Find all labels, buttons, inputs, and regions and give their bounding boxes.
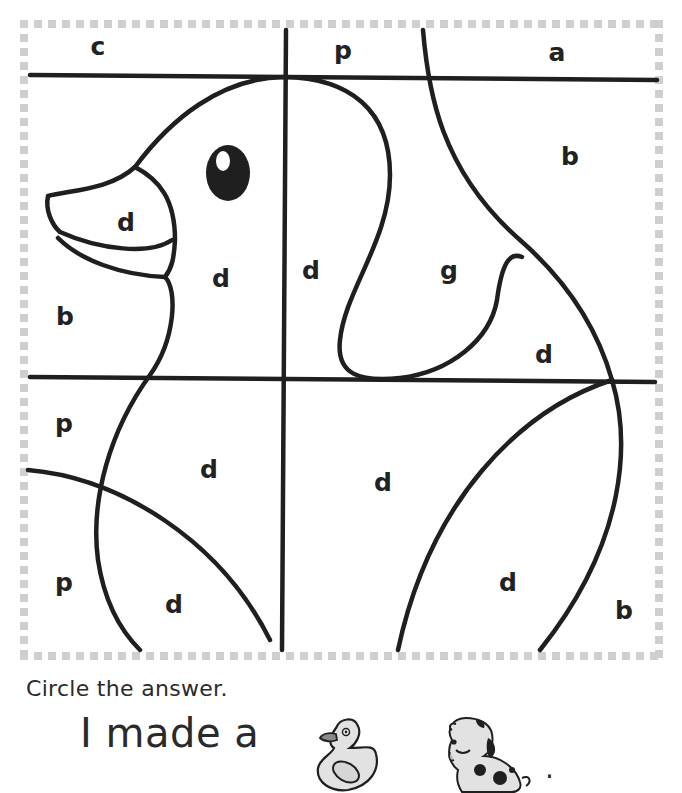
cell-letter-top-right-bg: b [561, 144, 579, 169]
cell-letter-top-left: c [91, 34, 106, 59]
cell-letter-head-right: d [302, 258, 320, 283]
cell-letter-body-1: d [200, 457, 218, 482]
cell-letter-wing: d [499, 570, 517, 595]
duck-icon [304, 714, 384, 793]
cell-letter-lower-left-2: p [55, 570, 73, 595]
grid-line-h1 [30, 75, 657, 80]
cell-letter-lower-right-bg: b [615, 598, 633, 623]
cell-letter-lower-left-1: p [55, 411, 73, 436]
cell-letter-body-3: d [374, 470, 392, 495]
cell-letter-wing-top: d [535, 342, 553, 367]
cell-letter-top-mid: p [334, 38, 352, 63]
instruction-text: Circle the answer. [26, 676, 228, 701]
dog-icon [432, 712, 540, 793]
sentence-period: . [545, 752, 554, 785]
duck-eye-icon [206, 145, 250, 201]
grid-line-v1 [282, 30, 286, 650]
cell-letter-neck: g [440, 258, 458, 283]
cell-letter-head: d [212, 266, 230, 291]
answer-choice-dog[interactable] [432, 712, 540, 793]
cell-letter-top-right: a [549, 40, 566, 65]
cell-letter-body-2: d [165, 592, 183, 617]
cell-letter-left-bg: b [56, 304, 74, 329]
grid-line-h2 [30, 377, 655, 382]
answer-choice-duck[interactable] [304, 714, 384, 793]
sentence-prompt: I made a [80, 710, 259, 756]
cell-letter-beak-upper: d [117, 210, 135, 235]
puzzle-lines [0, 0, 682, 670]
color-by-letter-puzzle [0, 0, 682, 670]
